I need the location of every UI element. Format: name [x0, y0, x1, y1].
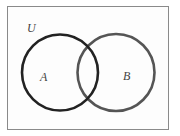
set-b-label: B	[123, 69, 131, 83]
universe-label: U	[27, 21, 37, 35]
venn-diagram: U A B	[0, 0, 180, 136]
set-a-label: A	[39, 70, 48, 84]
